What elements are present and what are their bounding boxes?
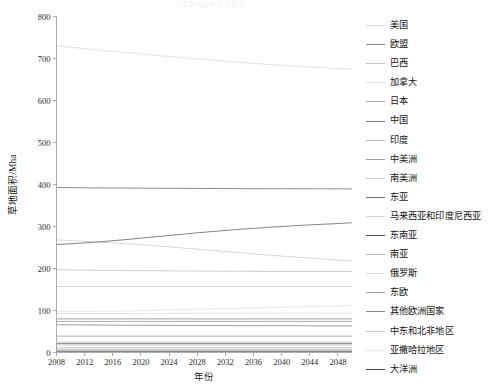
legend-line-icon [366,44,385,45]
legend-line-icon [366,63,385,64]
legend-item-label: 欧盟 [390,35,408,54]
x-tick-label: 2016 [104,357,121,367]
x-tick-label: 2008 [48,357,65,367]
legend-item-label: 印度 [390,131,408,150]
legend-line-icon [366,350,385,351]
legend-item-label: 大洋洲 [390,360,417,379]
legend-item-label: 马来西亚和印度尼西亚 [390,207,481,226]
x-tick-label: 2020 [132,357,149,367]
x-tick-label: 2012 [76,357,93,367]
legend-item[interactable]: 马来西亚和印度尼西亚 [366,207,498,226]
series-line [57,325,353,326]
series-group [57,46,353,351]
legend-line-icon [366,292,385,293]
legend-item-label: 中东和北非地区 [390,322,454,341]
legend-item[interactable]: 亚撒哈拉地区 [366,341,498,360]
y-tick-label: 0 [46,348,50,358]
legend-line-icon [366,82,385,83]
legend-item[interactable]: 南美洲 [366,169,498,188]
legend-item-label: 美国 [390,16,408,35]
y-tick-label: 500 [38,138,51,148]
series-line [57,270,353,272]
y-tick-label: 100 [38,306,51,316]
legend-item-label: 俄罗斯 [390,264,417,283]
legend-item[interactable]: 美国 [366,16,498,35]
legend-line-icon [366,254,385,255]
series-line [57,240,353,261]
x-tick-label: 2028 [189,357,206,367]
legend-item-label: 巴西 [390,54,408,73]
legend-item-label: 日本 [390,92,408,111]
series-line [57,187,353,188]
y-tick-label: 200 [38,264,51,274]
y-tick-label: 800 [38,12,51,22]
x-tick-label: 2048 [329,357,346,367]
legend-line-icon [366,25,385,26]
legend-item-label: 东欧 [390,283,408,302]
legend-item[interactable]: 日本 [366,92,498,111]
legend-item[interactable]: 其他欧洲国家 [366,302,498,321]
y-tick-label: 700 [38,54,51,64]
legend-line-icon [366,101,385,102]
series-line [57,305,353,311]
legend-item-label: 中美洲 [390,150,417,169]
x-tick-label: 2024 [161,357,179,367]
legend-item-label: 亚撒哈拉地区 [390,341,445,360]
legend-line-icon [366,369,385,370]
x-axis-title: 年份 [194,371,214,382]
axes-group [53,17,352,356]
x-tick-label: 2036 [245,357,262,367]
legend-item[interactable]: 大洋洲 [366,360,498,379]
x-tick-label: 2040 [273,357,290,367]
legend-line-icon [366,178,385,179]
series-line [57,313,353,314]
y-tick-label: 600 [38,96,51,106]
legend-item[interactable]: 俄罗斯 [366,264,498,283]
legend-item[interactable]: 加拿大 [366,73,498,92]
legend-item-label: 其他欧洲国家 [390,302,445,321]
legend-line-icon [366,197,385,198]
legend-item-label: 中国 [390,111,408,130]
x-tick-label: 2032 [217,357,234,367]
legend-line-icon [366,331,385,332]
y-tick-label: 300 [38,222,51,232]
legend-line-icon [366,140,385,141]
series-line [57,223,353,245]
legend-line-icon [366,159,385,160]
legend-item[interactable]: 南亚 [366,245,498,264]
legend-item[interactable]: 巴西 [366,54,498,73]
x-tick-label: 2044 [301,357,319,367]
chart-figure: ——— 全球草地面积变化预测 0100200300400500600700800… [0,0,498,392]
series-line [57,46,353,70]
legend-item[interactable]: 中美洲 [366,150,498,169]
legend-item-label: 东南亚 [390,226,417,245]
y-tick-label: 400 [38,180,51,190]
legend-item[interactable]: 欧盟 [366,35,498,54]
legend-line-icon [366,121,385,122]
legend-item-label: 加拿大 [390,73,417,92]
legend-item[interactable]: 中国 [366,111,498,130]
legend-item-label: 南亚 [390,245,408,264]
legend-item[interactable]: 东亚 [366,188,498,207]
legend-item[interactable]: 中东和北非地区 [366,322,498,341]
legend-item[interactable]: 印度 [366,131,498,150]
legend-line-icon [366,235,385,236]
legend-item-label: 东亚 [390,188,408,207]
legend-item-label: 南美洲 [390,169,417,188]
y-axis-title: 草地面积/Mha [7,154,18,215]
legend-line-icon [366,216,385,217]
legend-item[interactable]: 东欧 [366,283,498,302]
legend-line-icon [366,311,385,312]
chart-legend: 美国欧盟巴西加拿大日本中国印度中美洲南美洲东亚马来西亚和印度尼西亚东南亚南亚俄罗… [366,16,498,386]
legend-item[interactable]: 东南亚 [366,226,498,245]
legend-line-icon [366,273,385,274]
